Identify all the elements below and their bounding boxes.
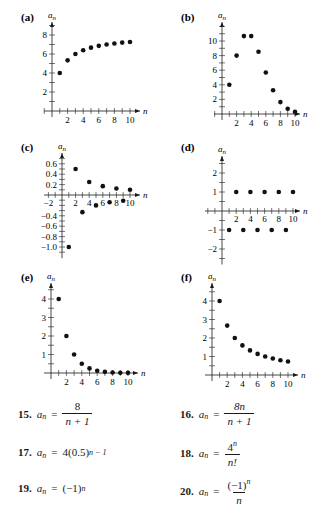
y-axis-label: an bbox=[218, 10, 227, 22]
data-point bbox=[256, 49, 261, 54]
x-tick-label: 2 bbox=[64, 377, 69, 387]
data-point bbox=[262, 190, 267, 195]
x-tick-label: 10 bbox=[289, 214, 299, 224]
y-tick-label: 1 bbox=[203, 352, 208, 362]
panel-label: (b) bbox=[181, 11, 195, 24]
x-tick-label: 10 bbox=[126, 198, 136, 208]
exercise-18: 18. an = 4n n! bbox=[180, 438, 240, 468]
data-point bbox=[104, 42, 109, 47]
x-tick-label: 4 bbox=[248, 214, 253, 224]
panel-label: (e) bbox=[21, 271, 34, 284]
x-tick-label: 6 bbox=[255, 379, 260, 389]
exercise-15: 15. an = 8 n + 1 bbox=[18, 400, 92, 427]
data-point bbox=[285, 106, 290, 111]
data-point bbox=[73, 167, 78, 172]
y-axis-label: an bbox=[58, 141, 67, 153]
data-point bbox=[120, 40, 125, 45]
x-tick-label: 2 bbox=[65, 115, 70, 125]
data-point bbox=[121, 198, 126, 203]
y-axis-arrow-icon bbox=[210, 283, 214, 288]
y-tick-label: 10 bbox=[208, 36, 218, 46]
chart-f: (f)ann2468101234 bbox=[181, 271, 306, 389]
chart-c: (c)ann−22468100.60.40.2−0.4−0.6−0.8−1.0 bbox=[21, 141, 148, 258]
data-point bbox=[107, 200, 112, 205]
x-axis-arrow-icon bbox=[135, 193, 140, 197]
x-tick-label: 8 bbox=[278, 118, 283, 128]
y-tick-label: 3 bbox=[203, 315, 208, 325]
data-point bbox=[110, 370, 115, 375]
data-point bbox=[56, 297, 61, 302]
y-axis-label: an bbox=[208, 271, 217, 283]
y-tick-label: 0.6 bbox=[46, 159, 58, 169]
x-axis-arrow-icon bbox=[135, 109, 140, 113]
chart-a: (a)ann2468102468 bbox=[21, 10, 148, 125]
data-point bbox=[101, 184, 106, 189]
y-tick-label: 4 bbox=[43, 68, 48, 78]
y-tick-label: 2 bbox=[213, 168, 218, 178]
y-tick-label: 3 bbox=[42, 313, 47, 323]
y-tick-label: 2 bbox=[43, 87, 48, 97]
data-point bbox=[249, 34, 254, 39]
data-point bbox=[73, 52, 78, 57]
y-tick-label: −2 bbox=[207, 244, 217, 254]
y-tick-label: 6 bbox=[43, 49, 48, 59]
data-point bbox=[95, 368, 100, 373]
data-point bbox=[264, 70, 269, 75]
x-tick-label: 2 bbox=[234, 214, 239, 224]
y-tick-label: 1 bbox=[213, 187, 218, 197]
y-tick-label: 2 bbox=[203, 333, 208, 343]
panel-label: (c) bbox=[21, 141, 34, 154]
x-axis-label: n bbox=[141, 368, 146, 378]
data-point bbox=[87, 180, 92, 185]
x-axis-arrow-icon bbox=[295, 209, 300, 213]
data-point bbox=[103, 370, 108, 375]
data-point bbox=[217, 299, 222, 304]
x-axis-arrow-icon bbox=[293, 373, 298, 377]
y-axis-arrow-icon bbox=[220, 156, 224, 161]
data-point bbox=[248, 190, 253, 195]
data-point bbox=[284, 228, 289, 233]
y-tick-label: 0.4 bbox=[46, 169, 58, 179]
data-point bbox=[234, 190, 239, 195]
y-tick-label: 0.2 bbox=[46, 180, 57, 190]
data-point bbox=[255, 352, 260, 357]
exercise-20: 20. an = (−1)n n bbox=[180, 476, 254, 506]
x-tick-label: 4 bbox=[240, 379, 245, 389]
x-tick-label: 6 bbox=[264, 118, 269, 128]
data-point bbox=[112, 41, 117, 46]
y-tick-label: −0.6 bbox=[41, 221, 58, 231]
fraction: 4n n! bbox=[224, 438, 240, 468]
x-tick-label: 8 bbox=[114, 198, 119, 208]
data-point bbox=[277, 190, 282, 195]
x-tick-label: 6 bbox=[101, 198, 106, 208]
y-tick-label: 1 bbox=[42, 350, 47, 360]
y-tick-label: 4 bbox=[203, 296, 208, 306]
x-tick-label: 4 bbox=[87, 198, 92, 208]
data-point bbox=[291, 190, 296, 195]
x-tick-label: 2 bbox=[234, 118, 239, 128]
x-axis-label: n bbox=[301, 370, 306, 380]
panel-label: (d) bbox=[181, 141, 195, 154]
panel-label: (a) bbox=[21, 11, 34, 24]
y-axis-label: an bbox=[47, 271, 56, 283]
data-point bbox=[94, 203, 99, 208]
exercise-19: 19. an = (−1)n bbox=[18, 482, 86, 494]
x-axis-label: n bbox=[143, 190, 148, 200]
y-tick-label: −0.8 bbox=[41, 232, 58, 242]
y-tick-label: −0.4 bbox=[41, 211, 58, 221]
x-tick-label: 8 bbox=[112, 115, 117, 125]
x-tick-label: 8 bbox=[277, 214, 282, 224]
data-point bbox=[80, 210, 85, 215]
data-point bbox=[240, 343, 245, 348]
chart-d: (d)ann24681021−1−2 bbox=[181, 141, 308, 265]
x-tick-label: 6 bbox=[95, 377, 100, 387]
x-tick-label: 2 bbox=[73, 198, 78, 208]
data-point bbox=[87, 366, 92, 371]
data-point bbox=[269, 228, 274, 233]
data-point bbox=[271, 356, 276, 361]
data-point bbox=[114, 186, 119, 191]
data-point bbox=[128, 40, 133, 45]
y-tick-label: −1 bbox=[207, 225, 217, 235]
panel-label: (f) bbox=[181, 271, 192, 284]
x-tick-label: 10 bbox=[291, 118, 301, 128]
